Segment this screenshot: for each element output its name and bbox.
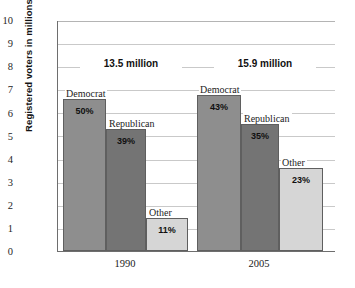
plot-area: Democrat 50% Republican 39% Other 11% De… <box>57 21 335 252</box>
bar-value-1990-democrat: 50% <box>64 106 105 116</box>
y-tick-9: 9 <box>0 39 13 49</box>
y-tick-2: 2 <box>0 201 13 211</box>
plot-inner: Democrat 50% Republican 39% Other 11% De… <box>58 21 335 251</box>
y-tick-3: 3 <box>0 178 13 188</box>
bar-label-1990-other: Other <box>148 207 174 218</box>
bar-2005-republican[interactable]: Republican 35% <box>241 124 279 251</box>
y-tick-1: 1 <box>0 224 13 234</box>
bar-label-1990-republican: Republican <box>108 118 157 129</box>
y-tick-6: 6 <box>0 109 13 119</box>
bar-value-2005-democrat: 43% <box>198 102 240 112</box>
bar-label-2005-republican: Republican <box>243 113 292 124</box>
group-total-2005: 15.9 million <box>214 58 316 69</box>
bar-chart: Registered voters in millions 10 9 8 7 6… <box>0 0 355 288</box>
y-axis-title: Registered voters in millions <box>23 0 34 166</box>
gridline-10 <box>58 21 335 22</box>
y-tick-4: 4 <box>0 155 13 165</box>
y-tick-10: 10 <box>0 16 13 26</box>
bar-label-2005-other: Other <box>281 157 307 168</box>
bar-label-2005-democrat: Democrat <box>199 84 241 95</box>
y-tick-5: 5 <box>0 132 13 142</box>
bar-1990-democrat[interactable]: Democrat 50% <box>63 99 106 251</box>
y-tick-0: 0 <box>0 247 13 257</box>
bar-value-2005-other: 23% <box>280 175 322 185</box>
y-tick-7: 7 <box>0 85 13 95</box>
bar-1990-other[interactable]: Other 11% <box>146 218 188 251</box>
bar-2005-other[interactable]: Other 23% <box>279 168 323 251</box>
bar-value-1990-republican: 39% <box>107 136 145 146</box>
bar-label-1990-democrat: Democrat <box>65 88 107 99</box>
bar-value-2005-republican: 35% <box>242 131 278 141</box>
y-tick-8: 8 <box>0 62 13 72</box>
bar-value-1990-other: 11% <box>147 225 187 235</box>
group-total-1990: 13.5 million <box>80 58 182 69</box>
x-tick-1990: 1990 <box>62 258 188 269</box>
gridline-9 <box>58 44 335 45</box>
x-tick-2005: 2005 <box>196 258 322 269</box>
bar-1990-republican[interactable]: Republican 39% <box>106 129 146 251</box>
bar-2005-democrat[interactable]: Democrat 43% <box>197 95 241 251</box>
